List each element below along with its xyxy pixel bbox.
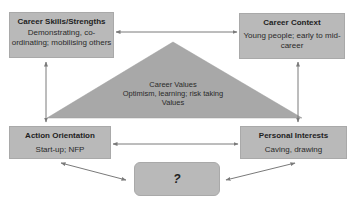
personal-interests-title: Personal Interests xyxy=(241,131,346,141)
career-values-footer: Values xyxy=(90,98,256,107)
career-values-label: Career Values Optimism, learning; risk t… xyxy=(90,80,256,107)
career-skills-box: Career Skills/Strengths Demonstrating, c… xyxy=(9,12,114,58)
unknown-box: ? xyxy=(134,162,220,196)
career-context-body: Young people; early to mid-career xyxy=(240,31,344,51)
personal-interests-box: Personal Interests Caving, drawing xyxy=(240,126,347,159)
career-skills-title: Career Skills/Strengths xyxy=(10,17,113,27)
arrow-interests-unknown xyxy=(226,163,295,180)
career-context-title: Career Context xyxy=(240,18,344,28)
action-orientation-box: Action Orientation Start-up; NFP xyxy=(9,126,111,159)
action-orientation-body: Start-up; NFP xyxy=(10,145,110,155)
career-context-box: Career Context Young people; early to mi… xyxy=(239,13,345,59)
career-values-title: Career Values xyxy=(90,80,256,89)
arrow-action-unknown xyxy=(61,163,126,180)
personal-interests-body: Caving, drawing xyxy=(241,145,346,155)
career-values-body: Optimism, learning; risk taking xyxy=(90,89,256,98)
question-mark-label: ? xyxy=(173,172,180,186)
career-skills-body: Demonstrating, co-ordinating; mobilising… xyxy=(10,28,113,48)
action-orientation-title: Action Orientation xyxy=(10,131,110,141)
